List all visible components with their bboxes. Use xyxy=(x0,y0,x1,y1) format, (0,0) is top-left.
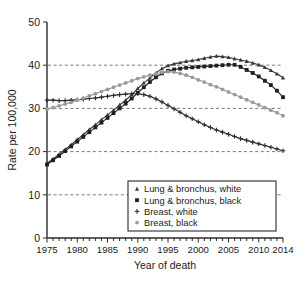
data-point-circle-2014 xyxy=(281,114,285,118)
rate-per-100000-line-chart: 0102030405019751980198519901995200020052… xyxy=(0,0,304,283)
data-point-square-2002 xyxy=(208,64,212,68)
data-point-square-1991 xyxy=(142,85,146,89)
data-point-square-1999 xyxy=(190,65,194,69)
data-point-square-1977 xyxy=(57,154,61,158)
x-tick-label-1975: 1975 xyxy=(36,244,57,255)
data-point-circle-1999 xyxy=(190,75,194,79)
legend-marker-square xyxy=(135,198,139,202)
data-point-circle-2001 xyxy=(202,80,206,84)
data-point-square-1981 xyxy=(81,135,85,139)
data-point-square-2012 xyxy=(269,83,273,87)
series-line-breast-black xyxy=(47,72,283,116)
x-tick-label-2000: 2000 xyxy=(188,244,209,255)
data-point-square-1983 xyxy=(94,126,98,130)
data-point-square-1993 xyxy=(154,75,158,79)
data-point-square-1989 xyxy=(130,97,134,101)
data-point-circle-1980 xyxy=(75,98,79,102)
legend-label-1: Lung & bronchus, black xyxy=(144,196,242,206)
x-axis-title: Year of death xyxy=(134,259,196,271)
data-point-circle-1992 xyxy=(148,73,152,77)
data-point-square-2000 xyxy=(196,65,200,69)
data-point-square-1986 xyxy=(112,111,116,115)
y-tick-label-10: 10 xyxy=(28,189,40,201)
data-point-square-1978 xyxy=(63,149,67,153)
data-point-circle-1991 xyxy=(142,75,146,79)
data-point-circle-2009 xyxy=(251,100,255,104)
data-point-square-2001 xyxy=(202,65,206,69)
data-point-circle-1986 xyxy=(112,85,116,89)
data-point-circle-1984 xyxy=(100,90,104,94)
y-tick-label-0: 0 xyxy=(34,232,40,244)
data-point-square-1987 xyxy=(118,107,122,111)
data-point-square-1997 xyxy=(178,67,182,71)
data-point-circle-1998 xyxy=(184,73,188,77)
data-point-circle-2013 xyxy=(275,111,279,115)
data-point-circle-1989 xyxy=(130,79,134,83)
data-point-circle-2002 xyxy=(208,83,212,87)
data-point-circle-2000 xyxy=(196,78,200,82)
x-tick-label-1980: 1980 xyxy=(67,244,88,255)
x-tick-label-1985: 1985 xyxy=(97,244,118,255)
data-point-square-2007 xyxy=(239,65,243,69)
data-point-square-2009 xyxy=(251,71,255,75)
data-point-circle-2004 xyxy=(221,87,225,91)
legend-label-2: Breast, white xyxy=(144,207,198,217)
data-point-square-2005 xyxy=(227,63,231,67)
data-point-circle-1976 xyxy=(51,106,55,110)
data-point-square-2003 xyxy=(215,64,219,68)
x-tick-label-2010: 2010 xyxy=(248,244,269,255)
data-point-circle-1983 xyxy=(94,92,98,96)
data-point-circle-1977 xyxy=(57,104,61,108)
data-point-circle-1975 xyxy=(45,107,49,111)
data-point-square-1985 xyxy=(106,116,110,120)
data-point-circle-2005 xyxy=(227,90,231,94)
data-point-circle-1990 xyxy=(136,77,140,81)
data-point-circle-1996 xyxy=(172,70,176,74)
data-point-square-1982 xyxy=(87,130,91,134)
data-point-circle-1993 xyxy=(154,72,158,76)
data-point-circle-1982 xyxy=(87,94,91,98)
data-point-square-1975 xyxy=(45,163,49,167)
data-point-circle-1985 xyxy=(106,87,110,91)
data-point-circle-2007 xyxy=(239,95,243,99)
data-point-circle-2008 xyxy=(245,98,249,102)
data-point-circle-1994 xyxy=(160,71,164,75)
legend-label-0: Lung & bronchus, white xyxy=(144,184,241,194)
y-axis-title: Rate per 100,000 xyxy=(6,89,18,170)
data-point-square-1988 xyxy=(124,102,128,106)
data-point-square-1980 xyxy=(75,140,79,144)
data-point-circle-1978 xyxy=(63,102,67,106)
data-point-circle-1988 xyxy=(124,81,128,85)
data-point-circle-1981 xyxy=(81,96,85,100)
data-point-square-2004 xyxy=(221,63,225,67)
data-point-circle-2012 xyxy=(269,108,273,112)
data-point-circle-1995 xyxy=(166,70,170,74)
data-point-square-2014 xyxy=(281,95,285,99)
y-tick-label-30: 30 xyxy=(28,102,40,114)
data-point-square-1992 xyxy=(148,80,152,84)
data-point-square-1976 xyxy=(51,158,55,162)
y-tick-label-20: 20 xyxy=(28,145,40,157)
data-point-circle-2006 xyxy=(233,93,237,97)
data-point-circle-2011 xyxy=(263,106,267,110)
data-point-square-2008 xyxy=(245,68,249,72)
data-point-square-2010 xyxy=(257,75,261,79)
data-point-square-1979 xyxy=(69,145,73,149)
legend-marker-circle xyxy=(135,221,139,225)
x-tick-label-1990: 1990 xyxy=(127,244,148,255)
data-point-circle-1987 xyxy=(118,83,122,87)
series-line-breast-white xyxy=(47,94,283,151)
data-point-square-1998 xyxy=(184,66,188,70)
data-point-circle-1997 xyxy=(178,72,182,76)
data-point-circle-2010 xyxy=(257,103,261,107)
data-point-square-2006 xyxy=(233,63,237,67)
data-point-square-1984 xyxy=(100,121,104,125)
series-line-lung-bronchus-black xyxy=(47,65,283,165)
data-point-circle-2003 xyxy=(215,85,219,89)
x-tick-label-2005: 2005 xyxy=(218,244,239,255)
y-tick-label-40: 40 xyxy=(28,59,40,71)
x-tick-label-2014: 2014 xyxy=(272,244,294,255)
x-tick-label-1995: 1995 xyxy=(157,244,178,255)
chart-figure: 0102030405019751980198519901995200020052… xyxy=(0,0,304,283)
y-tick-label-50: 50 xyxy=(28,16,40,28)
